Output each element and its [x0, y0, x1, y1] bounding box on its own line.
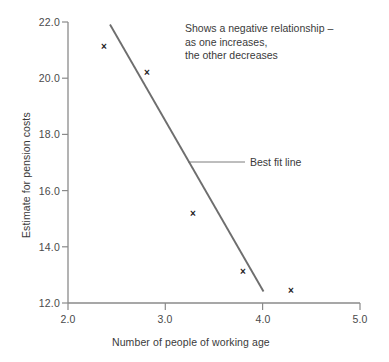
data-point-marker: × [190, 209, 196, 219]
scatter-chart: 22.0 20.0 18.0 16.0 14.0 12.0 2.0 3.0 4.… [0, 0, 389, 362]
x-axis-title: Number of people of working age [112, 336, 270, 348]
x-tick-label-4: 4.0 [243, 313, 283, 325]
x-tick-label-5: 5.0 [340, 313, 380, 325]
data-point-marker: × [288, 286, 294, 296]
y-tick-label-20: 20.0 [26, 72, 60, 84]
best-fit-line-label: Best fit line [250, 156, 301, 168]
best-fit-line [110, 25, 264, 292]
x-tick-label-2: 2.0 [48, 313, 88, 325]
relationship-annotation-line-1: Shows a negative relationship – [185, 22, 333, 36]
y-tick-label-14: 14.0 [26, 241, 60, 253]
data-point-marker: × [240, 267, 246, 277]
y-tick-label-12: 12.0 [26, 297, 60, 309]
y-axis-title: Estimate for pension costs [20, 112, 32, 238]
data-point-marker: × [101, 42, 107, 52]
y-axis-ticks [62, 22, 68, 303]
relationship-annotation-line-3: the other decreases [185, 49, 333, 63]
x-tick-label-3: 3.0 [145, 313, 185, 325]
x-axis-ticks [68, 303, 360, 310]
y-tick-label-22: 22.0 [26, 16, 60, 28]
data-point-marker: × [144, 68, 150, 78]
relationship-annotation-line-2: as one increases, [185, 36, 333, 50]
relationship-annotation: Shows a negative relationship – as one i… [185, 22, 333, 63]
